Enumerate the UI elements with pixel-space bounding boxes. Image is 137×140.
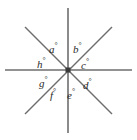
angle-label-a: a° — [49, 42, 58, 55]
degree-symbol-d: ° — [89, 77, 92, 86]
angle-label-h: h° — [37, 57, 46, 70]
degree-symbol-h: ° — [43, 56, 46, 65]
angle-label-b: b° — [73, 42, 82, 55]
angle-label-c: c° — [81, 58, 89, 71]
diagram-lines-svg — [0, 0, 137, 140]
intersection-vertex-dot — [66, 68, 71, 73]
angle-diagram: a° b° c° d° e° f° g° h° — [0, 0, 137, 140]
angle-label-d: d° — [83, 78, 92, 91]
angle-label-f: f° — [50, 88, 56, 101]
angle-label-e: e° — [67, 88, 75, 101]
degree-symbol-f: ° — [53, 87, 56, 96]
angle-label-g: g° — [39, 76, 48, 89]
degree-symbol-b: ° — [79, 41, 82, 50]
degree-symbol-c: ° — [86, 57, 89, 66]
degree-symbol-g: ° — [45, 75, 48, 84]
degree-symbol-a: ° — [55, 41, 58, 50]
degree-symbol-e: ° — [72, 87, 75, 96]
